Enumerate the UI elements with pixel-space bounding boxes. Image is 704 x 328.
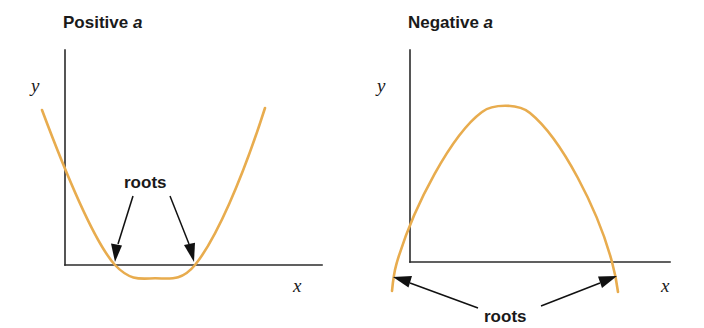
panel-positive-a: Positive a y x roots bbox=[29, 13, 322, 296]
roots-arrowhead-left-1 bbox=[111, 244, 122, 263]
roots-arrowhead-left-2 bbox=[184, 243, 195, 262]
figure-canvas: Positive a y x roots Negative a bbox=[0, 0, 704, 328]
parabola-curve-negative bbox=[392, 106, 618, 292]
panel-title-positive-variable: a bbox=[133, 13, 142, 32]
panel-title-positive: Positive a bbox=[63, 13, 142, 32]
x-axis-label-left: x bbox=[292, 275, 302, 296]
x-axis-label-right: x bbox=[660, 275, 670, 296]
panel-negative-a: Negative a y x roots bbox=[375, 13, 670, 326]
roots-arrowhead-right-2 bbox=[598, 276, 617, 288]
panel-title-negative-prefix: Negative bbox=[408, 13, 484, 32]
parabola-curve-positive bbox=[42, 108, 265, 279]
roots-leader-left-2 bbox=[170, 196, 189, 244]
panel-title-negative-variable: a bbox=[484, 13, 493, 32]
y-axis-label-right: y bbox=[375, 75, 386, 96]
panel-title-positive-prefix: Positive bbox=[63, 13, 133, 32]
roots-label-left: roots bbox=[124, 173, 167, 192]
quadratic-roots-figure: Positive a y x roots Negative a bbox=[0, 0, 704, 328]
roots-leader-right-2 bbox=[541, 283, 600, 306]
roots-arrowhead-right-1 bbox=[393, 276, 412, 288]
y-axis-label-left: y bbox=[29, 75, 40, 96]
panel-title-negative: Negative a bbox=[408, 13, 493, 32]
roots-leader-right-1 bbox=[410, 283, 478, 308]
roots-label-right: roots bbox=[484, 307, 527, 326]
roots-leader-left-1 bbox=[118, 196, 133, 244]
